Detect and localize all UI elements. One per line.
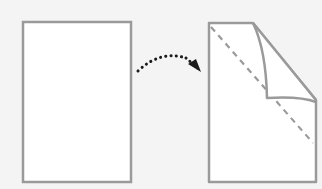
folded-sheet	[209, 23, 316, 182]
dotted-arrow-icon	[138, 56, 201, 72]
blank-sheet	[23, 22, 131, 182]
folding-diagram	[0, 0, 322, 189]
